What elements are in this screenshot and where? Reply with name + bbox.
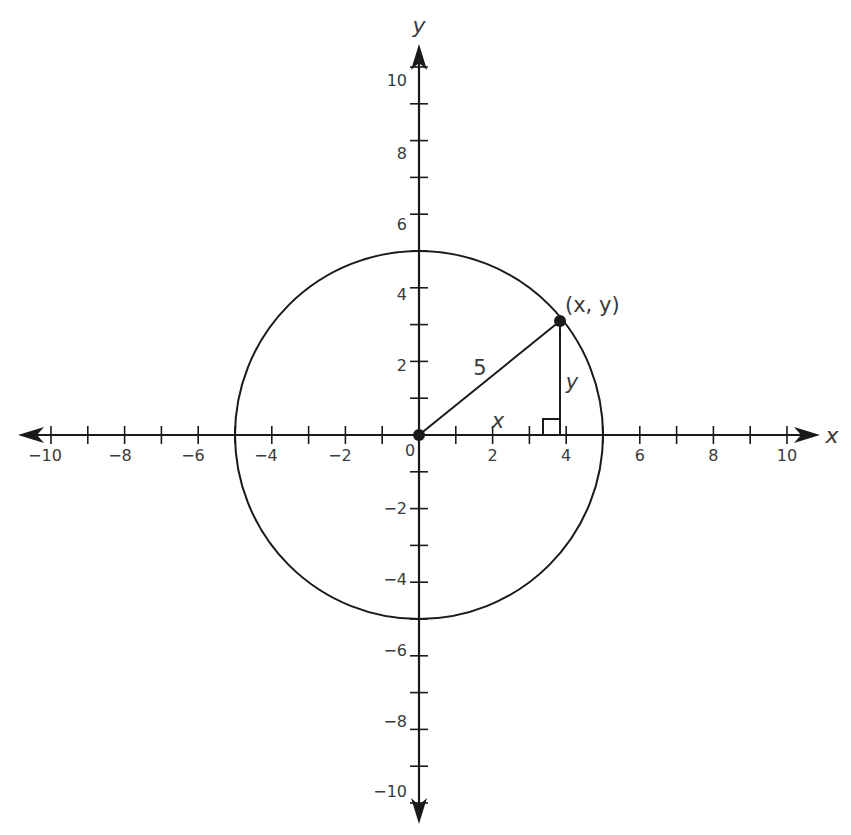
x-tick-label: −4 (254, 446, 278, 465)
y-tick-label: 10 (387, 71, 407, 90)
y-tick-label: 4 (397, 285, 407, 304)
y-axis: 10 8 6 4 2 −2 −4 −6 −8 −10 y (373, 13, 428, 824)
origin-point (413, 429, 425, 441)
x-axis-label: x (824, 423, 839, 448)
y-tick-label: 6 (397, 215, 407, 234)
y-axis-label: y (411, 13, 426, 38)
x-tick-label: 2 (488, 446, 498, 465)
hypotenuse-label: 5 (473, 356, 486, 380)
leg-x-label: x (491, 409, 505, 433)
x-tick-label: 10 (777, 446, 797, 465)
point-xy-label: (x, y) (565, 293, 620, 317)
y-tick-label: 2 (397, 356, 407, 375)
x-tick-label: −8 (108, 446, 132, 465)
right-triangle (419, 321, 560, 435)
x-tick-label: 4 (561, 446, 571, 465)
origin-label: 0 (405, 441, 415, 460)
y-tick-label: −8 (383, 712, 407, 731)
x-tick-label: 8 (708, 446, 718, 465)
y-tick-label: −6 (383, 641, 407, 660)
y-tick-label: −4 (383, 570, 407, 589)
y-tick-label: −10 (373, 782, 407, 801)
y-tick-label: 8 (397, 144, 407, 163)
right-angle-marker (543, 419, 560, 435)
x-tick-label: 6 (635, 446, 645, 465)
coordinate-plane-diagram: −10 −8 −6 −4 −2 2 4 6 8 10 x (0, 0, 851, 835)
x-tick-label: −10 (28, 446, 62, 465)
y-tick-label: −2 (383, 499, 407, 518)
x-tick-label: −6 (181, 446, 205, 465)
x-axis: −10 −8 −6 −4 −2 2 4 6 8 10 x (18, 423, 839, 465)
leg-y-label: y (565, 370, 579, 394)
x-tick-label: −2 (328, 446, 352, 465)
hypotenuse-line (419, 321, 560, 435)
